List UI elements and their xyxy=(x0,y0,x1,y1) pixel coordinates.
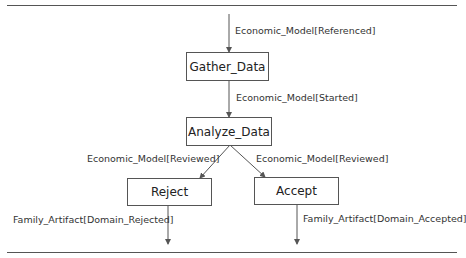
edge-label-reject-out: Family_Artifact[Domain_Rejected] xyxy=(13,214,174,225)
edge-label-analyze-to-reject: Economic_Model[Reviewed] xyxy=(87,153,219,164)
node-accept: Accept xyxy=(254,177,339,205)
node-analyze-data: Analyze_Data xyxy=(186,117,272,146)
node-reject: Reject xyxy=(127,178,212,206)
edge-label-analyze-to-accept: Economic_Model[Reviewed] xyxy=(256,153,388,164)
edge-label-gather-to-analyze: Economic_Model[Started] xyxy=(236,92,358,103)
node-gather-data: Gather_Data xyxy=(186,52,269,81)
edge-label-entry: Economic_Model[Referenced] xyxy=(235,25,376,36)
edge-label-accept-out: Family_Artifact[Domain_Accepted] xyxy=(303,213,466,224)
